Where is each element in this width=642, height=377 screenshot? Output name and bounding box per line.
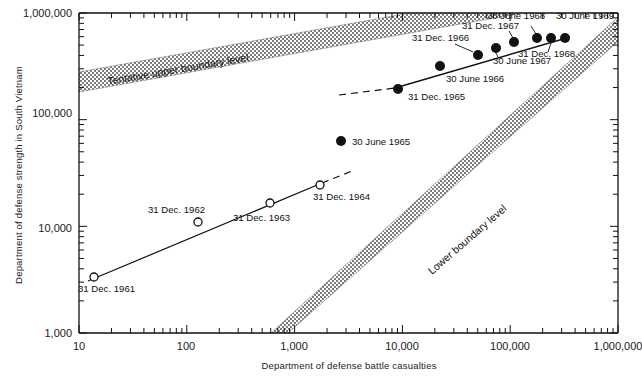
chart-figure: 10 100 1,000 10,000 100,000 1,000,000 1,… (0, 0, 642, 377)
x-tick-label-10000: 10,000 (385, 340, 419, 352)
label-31-dec-1965: 31 Dec. 1965 (408, 91, 465, 102)
data-point-30-june-1965[interactable] (336, 136, 346, 146)
x-axis-title: Department of defense battle casualties (261, 360, 436, 371)
y-axis-title: Department of defense strength in South … (13, 66, 24, 284)
x-tick-label-100: 100 (177, 340, 195, 352)
data-point-31-dec-1968[interactable] (546, 33, 556, 43)
data-point-30-june-1967[interactable] (491, 43, 501, 53)
x-tick-label-100000: 100,000 (490, 340, 530, 352)
label-30-june-1968: 30 June 1968 (487, 10, 545, 21)
label-31-dec-1961: 31 Dec. 1961 (78, 283, 135, 294)
data-point-30-june-1968[interactable] (532, 33, 542, 43)
data-point-30-june-1969[interactable] (560, 33, 570, 43)
data-point-31-dec-1966[interactable] (473, 50, 483, 60)
label-31-dec-1968: 31 Dec. 1968 (518, 48, 575, 59)
label-30-june-1969: 30 June 1969 (556, 10, 614, 21)
data-point-31-dec-1967[interactable] (509, 37, 519, 47)
label-31-dec-1966: 31 Dec. 1966 (412, 32, 469, 43)
x-tick-label-10: 10 (73, 340, 85, 352)
y-tick-label-1000: 1,000 (44, 327, 72, 339)
data-point-30-june-1966[interactable] (435, 61, 445, 71)
label-30-june-1966: 30 June 1966 (446, 73, 504, 84)
label-31-dec-1962: 31 Dec. 1962 (148, 204, 205, 215)
label-30-june-1965: 30 June 1965 (352, 136, 410, 147)
y-tick-label-10000: 10,000 (38, 222, 72, 234)
x-tick-label-1000: 1,000 (280, 340, 308, 352)
y-tick-label-100000: 100,000 (32, 107, 72, 119)
label-31-dec-1963: 31 Dec. 1963 (233, 212, 290, 223)
label-31-dec-1964: 31 Dec. 1964 (313, 191, 371, 202)
data-point-31-dec-1963[interactable] (266, 199, 274, 207)
scatter-plot-svg: 10 100 1,000 10,000 100,000 1,000,000 1,… (0, 0, 642, 377)
data-point-31-dec-1962[interactable] (194, 218, 202, 226)
x-tick-label-1000000: 1,000,000 (594, 340, 642, 352)
y-tick-label-1000000: 1,000,000 (23, 7, 72, 19)
data-point-31-dec-1964[interactable] (316, 181, 324, 189)
data-point-31-dec-1965[interactable] (393, 84, 403, 94)
data-point-31-dec-1961[interactable] (90, 273, 98, 281)
label-31-dec-1967: 31 Dec. 1967 (462, 20, 519, 31)
